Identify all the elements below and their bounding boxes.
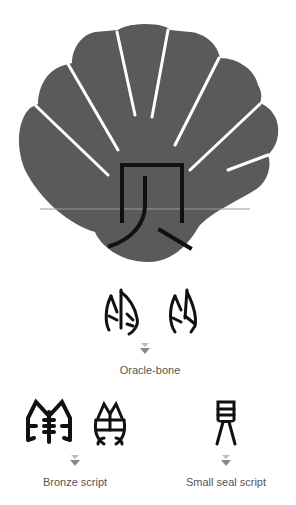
stage-label-bronze-script: Bronze script <box>20 476 130 488</box>
stage-label-oracle-bone: Oracle-bone <box>95 364 205 376</box>
shell-icon <box>19 24 278 262</box>
oracle-bone-glyph-1 <box>103 288 143 338</box>
small-seal-script-glyph <box>213 398 239 448</box>
bronze-script-glyph-1 <box>22 398 77 446</box>
double-down-arrow-icon <box>140 343 150 355</box>
oracle-bone-glyph-2 <box>165 288 201 338</box>
bronze-script-glyph-2 <box>90 400 130 448</box>
cowrie-shell-illustration <box>0 0 296 265</box>
double-down-arrow-icon <box>70 455 80 467</box>
stage-label-small-seal-script: Small seal script <box>170 476 282 488</box>
double-down-arrow-icon <box>221 455 231 467</box>
